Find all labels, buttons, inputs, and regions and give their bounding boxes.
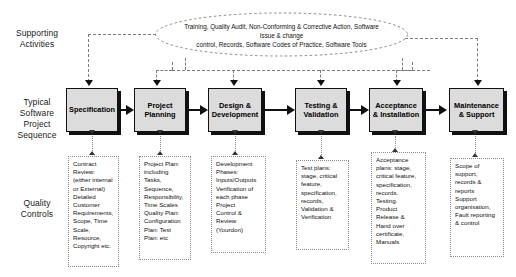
flow-arrow-5-head: [439, 105, 447, 115]
dashed-feeder-left: [185, 58, 186, 70]
dashed-drop-project-planning-h2: [156, 70, 172, 71]
dashed-link-spec-v: [88, 34, 89, 82]
qc-link-testing-validation: [321, 136, 322, 157]
qc-arrow-up-design-development: [232, 130, 238, 134]
process-box-maintenance-support-label: Maintenance & Support: [454, 101, 499, 120]
diagram-canvas: Supporting Activities Typical Software P…: [0, 0, 516, 277]
dashed-feeder-right: [402, 58, 403, 70]
quality-control-box-specification[interactable]: Contract Review: (either internal or Ext…: [68, 156, 119, 267]
dashed-link-maint-v: [477, 38, 478, 82]
dashed-drop-acceptance-installation-a: [412, 62, 413, 70]
quality-control-box-design-development[interactable]: Development Phases: Inputs/Outputs Verif…: [211, 156, 266, 253]
qc-arrow-up-specification: [89, 130, 95, 134]
arrowhead-down-project-planning: [153, 80, 161, 86]
process-box-testing-validation-label: Testing & Validation: [304, 101, 339, 120]
dashed-bus-lower: [172, 70, 430, 71]
quality-control-box-maintenance-support[interactable]: Scope of support, records & reports Supp…: [450, 158, 504, 257]
flow-arrow-3-head: [287, 105, 295, 115]
arrowhead-down-specification: [85, 80, 93, 86]
arrowhead-down-acceptance-installation: [393, 80, 401, 86]
row-label-supporting-activities: Supporting Activities: [6, 28, 68, 50]
process-box-acceptance-installation-label: Acceptance & Installation: [373, 101, 419, 120]
flow-arrow-4-head: [361, 105, 369, 115]
quality-control-box-project-planning-text: Project Plan: including Tasks, Sequence,…: [144, 160, 187, 242]
arrowhead-down-design-development: [230, 80, 238, 86]
qc-arrow-down-specification: [89, 151, 95, 155]
dashed-drop-acceptance-installation-h: [396, 70, 412, 71]
process-box-design-development-label: Design & Development: [212, 101, 258, 120]
dashed-drop-project-planning: [172, 62, 173, 70]
process-box-design-development[interactable]: Design & Development: [208, 88, 262, 132]
flow-arrow-3-line: [265, 109, 289, 111]
flow-arrow-2-head: [200, 105, 208, 115]
qc-arrow-down-design-development: [232, 151, 238, 155]
quality-control-box-testing-validation-text: Test plans: stage, critical feature, spe…: [301, 164, 345, 221]
quality-control-box-maintenance-support-text: Scope of support, records & reports Supp…: [455, 162, 500, 228]
dashed-link-ellipse-to-maint-h: [405, 38, 478, 39]
qc-arrow-up-maintenance-support: [472, 130, 478, 134]
quality-control-box-acceptance-installation[interactable]: Acceptance plans: stage, critical featur…: [371, 152, 426, 264]
row-label-quality-controls: Quality Controls: [6, 198, 68, 220]
process-box-specification[interactable]: Specification: [66, 88, 118, 132]
qc-arrow-up-testing-validation: [318, 130, 324, 134]
arrowhead-down-testing-validation: [317, 80, 325, 86]
qc-arrow-up-acceptance-installation: [392, 130, 398, 134]
quality-control-box-project-planning[interactable]: Project Plan: including Tasks, Sequence,…: [139, 156, 191, 260]
quality-control-box-design-development-text: Development Phases: Inputs/Outputs Verif…: [216, 160, 262, 234]
process-box-specification-label: Specification: [69, 105, 115, 115]
quality-control-box-testing-validation[interactable]: Test plans: stage, critical feature, spe…: [296, 160, 349, 250]
process-box-maintenance-support[interactable]: Maintenance & Support: [449, 88, 504, 132]
flow-arrow-1-head: [126, 105, 134, 115]
qc-arrow-up-project-planning: [157, 130, 163, 134]
quality-control-box-specification-text: Contract Review: (either internal or Ext…: [73, 160, 115, 250]
supporting-activities-text: Training, Quality Audit, Non-Conforming …: [154, 21, 409, 48]
arrowhead-down-maintenance-support: [474, 80, 482, 86]
qc-arrow-down-testing-validation: [318, 155, 324, 159]
quality-control-box-acceptance-installation-text: Acceptance plans: stage, critical featur…: [376, 156, 422, 246]
process-box-project-planning[interactable]: Project Planning: [134, 88, 186, 132]
process-box-project-planning-label: Project Planning: [144, 101, 175, 120]
supporting-activities-ellipse: Training, Quality Audit, Non-Conforming …: [154, 12, 409, 57]
qc-arrow-down-project-planning: [157, 151, 163, 155]
row-label-typical-software-project-sequence: Typical Software Project Sequence: [6, 97, 68, 141]
process-box-testing-validation[interactable]: Testing & Validation: [295, 88, 347, 132]
dashed-link-ellipse-to-spec-h: [88, 34, 156, 35]
qc-arrow-down-maintenance-support: [472, 153, 478, 157]
process-box-acceptance-installation[interactable]: Acceptance & Installation: [369, 88, 423, 132]
